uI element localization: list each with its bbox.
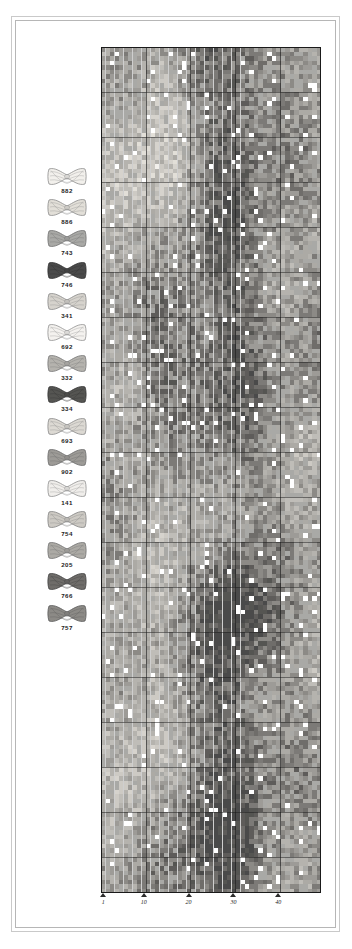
thread-skein-icon [47, 447, 87, 468]
thread-skein-icon [47, 166, 87, 187]
legend-thread-code: 341 [36, 312, 98, 320]
thread-skein-icon [47, 509, 87, 530]
legend-item: 754 [36, 509, 98, 540]
legend-item: 882 [36, 166, 98, 197]
legend-item: 334 [36, 384, 98, 415]
legend-thread-code: 205 [36, 561, 98, 569]
axis-tick-label: 1 [94, 898, 112, 907]
legend-item: 692 [36, 322, 98, 353]
legend-thread-code: 743 [36, 249, 98, 257]
axis-tick: 20 [180, 893, 198, 907]
thread-skein-icon [47, 571, 87, 592]
legend-thread-code: 757 [36, 624, 98, 632]
axis-tick-label: 20 [180, 898, 198, 907]
legend-thread-code: 902 [36, 468, 98, 476]
axis-tick-label: 40 [269, 898, 287, 907]
thread-skein-icon [47, 228, 87, 249]
legend-item: 886 [36, 197, 98, 228]
legend-thread-code: 746 [36, 281, 98, 289]
axis-tick-label: 10 [135, 898, 153, 907]
legend-thread-code: 886 [36, 218, 98, 226]
thread-skein-icon [47, 353, 87, 374]
column-axis: 110203040 [101, 893, 321, 915]
legend-thread-code: 334 [36, 405, 98, 413]
axis-tick: 10 [135, 893, 153, 907]
axis-tick: 40 [269, 893, 287, 907]
axis-tick-arrow-icon [230, 893, 236, 897]
axis-tick-arrow-icon [186, 893, 192, 897]
thread-skein-icon [47, 540, 87, 561]
stitch-chart-canvas[interactable] [101, 47, 321, 893]
thread-skein-icon [47, 384, 87, 405]
legend-item: 332 [36, 353, 98, 384]
legend-item: 902 [36, 447, 98, 478]
legend-item: 766 [36, 571, 98, 602]
thread-skein-icon [47, 260, 87, 281]
thread-legend: 8828867437463416923323346939021417542057… [36, 166, 98, 634]
legend-thread-code: 882 [36, 187, 98, 195]
axis-tick-arrow-icon [141, 893, 147, 897]
axis-tick: 1 [94, 893, 112, 907]
thread-skein-icon [47, 322, 87, 343]
legend-thread-code: 692 [36, 343, 98, 351]
legend-item: 205 [36, 540, 98, 571]
thread-skein-icon [47, 291, 87, 312]
legend-item: 746 [36, 260, 98, 291]
thread-skein-icon [47, 478, 87, 499]
legend-item: 743 [36, 228, 98, 259]
axis-tick-arrow-icon [275, 893, 281, 897]
axis-tick-label: 30 [224, 898, 242, 907]
legend-thread-code: 693 [36, 437, 98, 445]
legend-item: 141 [36, 478, 98, 509]
thread-skein-icon [47, 416, 87, 437]
legend-item: 757 [36, 603, 98, 634]
axis-tick: 30 [224, 893, 242, 907]
legend-thread-code: 766 [36, 592, 98, 600]
legend-item: 693 [36, 416, 98, 447]
thread-skein-icon [47, 197, 87, 218]
pattern-page: 8828867437463416923323346939021417542057… [0, 0, 352, 949]
legend-thread-code: 754 [36, 530, 98, 538]
axis-tick-arrow-icon [100, 893, 106, 897]
legend-thread-code: 332 [36, 374, 98, 382]
stitch-chart[interactable] [101, 47, 321, 893]
thread-skein-icon [47, 603, 87, 624]
legend-item: 341 [36, 291, 98, 322]
legend-thread-code: 141 [36, 499, 98, 507]
